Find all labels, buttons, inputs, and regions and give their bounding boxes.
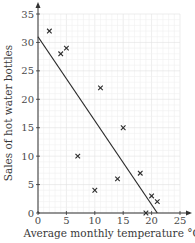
y-tick-label: 5 [28,179,34,190]
y-tick-label: 20 [21,94,34,105]
y-tick-label: 10 [21,151,34,162]
y-tick-label: 15 [21,122,34,133]
y-tick-label: 30 [21,37,34,48]
line-of-best-fit [38,37,157,213]
x-tick-label: 10 [88,215,101,226]
y-tick-label: 35 [21,9,34,20]
y-tick-label: 25 [21,65,34,76]
x-tick-label: 15 [117,215,130,226]
x-axis-label: Average monthly temperature °C [23,227,195,239]
y-tick-label: 0 [28,208,34,219]
scatter-chart: 051015202505101520253035 Average monthly… [0,0,195,243]
x-tick-label: 0 [35,215,41,226]
x-tick-label: 5 [63,215,69,226]
x-tick-label: 25 [174,215,187,226]
y-axis-label: Sales of hot water bottles [2,45,14,181]
x-tick-label: 20 [145,215,158,226]
grid [38,14,180,213]
tick-labels: 051015202505101520253035 [21,9,186,227]
